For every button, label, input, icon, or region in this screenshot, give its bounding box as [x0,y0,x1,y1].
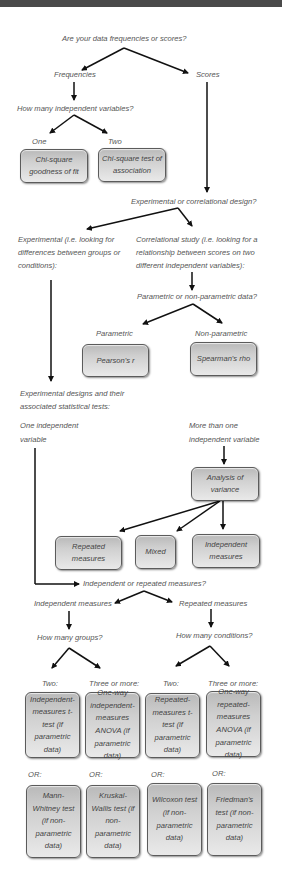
label-or-4: OR: [212,768,226,780]
box-anova-repeated-measures: Repeated measures [55,536,122,570]
label-or-3: OR: [151,769,165,781]
box-wilcoxon: Wilcoxon test (if non-parametric data) [147,783,202,856]
question-design: Experimental or correlational design? [131,196,256,208]
label-two-conditions: Two: [163,678,179,690]
box-friedmans: Friedman's test (if non-parametric data) [207,783,262,856]
label-more-than-one-iv: More than one independent variable [189,419,271,447]
label-repeated-measures: Repeated measures [179,598,247,610]
question-how-many-ivs: How many independent variables? [17,103,134,115]
question-how-many-groups: How many groups? [37,632,102,644]
box-chi-square-goodness-of-fit: Chi-square goodness of fit [20,149,88,183]
question-independent-or-repeated: Independent or repeated measures? [83,578,206,590]
box-anova-mixed: Mixed [135,535,176,569]
label-two-groups: Two: [42,678,58,690]
label-experimental: Experimental (i.e. looking for differenc… [18,233,128,272]
label-or-1: OR: [28,769,42,781]
label-parametric: Parametric [96,328,133,340]
label-or-2: OR: [89,769,103,781]
label-independent-measures: Independent measures [34,598,112,610]
label-scores: Scores [196,69,220,81]
question-frequencies-or-scores: Are your data frequencies or scores? [62,33,187,45]
box-repeated-t-test: Repeated-measures t-test (if parametric … [145,693,200,758]
box-chi-square-association: Chi-square test of association [98,148,166,182]
box-anova-independent-measures: Independent measures [192,534,260,568]
label-correlational: Correlational study (i.e. looking for a … [136,233,264,272]
box-independent-t-test: Independent-measures t-test (if parametr… [25,692,80,758]
question-parametric: Parametric or non-parametric data? [137,291,257,303]
label-one: One [32,136,46,148]
question-how-many-conditions: How many conditions? [176,630,252,642]
box-analysis-of-variance: Analysis of variance [191,467,259,501]
box-one-way-independent-anova: One-way independent-measures ANOVA (if p… [85,692,140,758]
box-one-way-repeated-anova: One-way repeated-measures ANOVA (if para… [206,691,261,757]
label-experimental-designs: Experimental designs and their associate… [20,387,132,413]
box-mann-whitney: Mann-Whitney test (if non-parametric dat… [26,785,81,858]
box-pearsons-r: Pearson's r [82,344,149,377]
box-kruskal-wallis: Kruskal-Wallis test (if non-parametric d… [86,785,140,858]
label-two: Two [108,136,122,148]
box-spearmans-rho: Spearman's rho [190,342,257,376]
label-non-parametric: Non-parametric [195,328,247,340]
label-frequencies: Frequencies [54,69,96,81]
label-one-independent-variable: One independent variable [20,419,90,447]
